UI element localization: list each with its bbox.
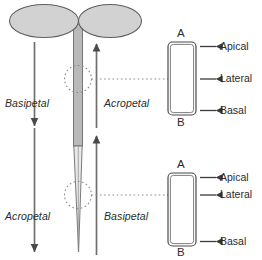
lower-right-flow-label: Basipetal [104, 211, 148, 222]
root-taper [74, 146, 82, 252]
shoot-cell-top-pole-label: A [177, 28, 185, 40]
root-cell-lateral-label: Lateral [220, 189, 252, 200]
shoot-cell-apical-label: Apical [220, 41, 249, 52]
shoot-cell-outline [168, 42, 196, 115]
root-cell-basal-label: Basal [220, 236, 246, 247]
root-cell-outline [168, 173, 196, 246]
shoot-cell-lateral-label: Lateral [220, 73, 252, 84]
hypocotyl [74, 24, 83, 146]
root-cell-apical-label: Apical [220, 172, 249, 183]
cotyledon-left [10, 5, 79, 38]
upper-left-flow-label: Basipetal [5, 98, 49, 109]
root-cell-top-pole-label: A [177, 159, 185, 171]
shoot-cell-bottom-pole-label: B [177, 117, 185, 129]
shoot-cell-basal-label: Basal [220, 105, 246, 116]
auxin-transport-figure: Basipetal Acropetal Acropetal Basipetal … [0, 0, 262, 260]
upper-right-flow-label: Acropetal [104, 98, 149, 109]
root-cell-bottom-pole-label: B [177, 247, 185, 259]
lower-left-flow-label: Acropetal [5, 211, 50, 222]
cotyledon-right [79, 5, 142, 38]
